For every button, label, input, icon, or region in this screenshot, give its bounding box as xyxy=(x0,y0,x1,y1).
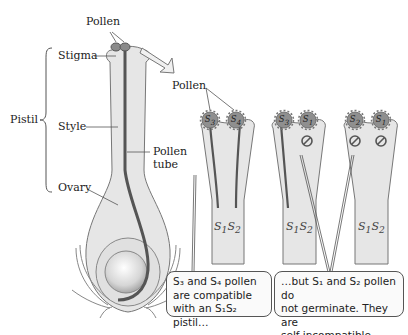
callout-incompatible: …but S₁ and S₂ pollen do not germinate. … xyxy=(274,271,404,317)
pistil-brace xyxy=(40,48,52,192)
label-pistil: Pistil xyxy=(10,114,38,126)
label-style: Style xyxy=(58,121,86,133)
pistil-incompatible xyxy=(344,119,397,264)
pistil-partial xyxy=(272,119,325,264)
ovule xyxy=(105,251,147,293)
genotype-label: S1S2 xyxy=(358,220,385,235)
label-stigma: Stigma xyxy=(58,50,98,62)
callout-compatible: S₃ and S₄ pollen are compatible with an … xyxy=(166,271,272,317)
label-ovary: Ovary xyxy=(58,182,91,194)
genotype-label: S1S2 xyxy=(214,220,241,235)
label-pollen-tube-1: Pollen xyxy=(153,146,187,158)
pistil-illustration xyxy=(40,32,184,318)
label-pollen-right: Pollen xyxy=(172,80,206,92)
genotype-label: S1S2 xyxy=(286,220,313,235)
label-pollen-left: Pollen xyxy=(86,16,120,28)
pistil-compatible xyxy=(201,119,254,264)
pollen-grain xyxy=(120,43,130,51)
label-pollen-tube-2: tube xyxy=(153,159,178,171)
